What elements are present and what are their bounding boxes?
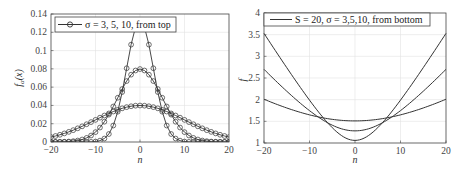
right-ytick-label: 3.5 — [248, 30, 260, 40]
left-ytick-label: 0.08 — [30, 64, 47, 74]
left-xtick-label: −10 — [88, 145, 103, 155]
left-xtick-label: 20 — [224, 145, 234, 155]
left-ytick-label: 0.06 — [30, 82, 47, 92]
right-ytick-label: 1 — [255, 138, 260, 148]
left-ytick-label: 0.1 — [35, 46, 47, 56]
right-ytick-label: 2.5 — [248, 73, 260, 83]
figure: −20−100102000.020.040.060.080.10.120.14 … — [0, 0, 464, 173]
left-xlabel: n — [138, 154, 143, 165]
right-xlabel: n — [353, 154, 358, 165]
left-chart: −20−100102000.020.040.060.080.10.120.14 … — [13, 9, 234, 165]
right-ytick-label: 3 — [255, 51, 260, 61]
right-xtick-label: −10 — [302, 146, 317, 156]
right-ytick-label: 2 — [255, 95, 260, 105]
left-ytick-label: 0.12 — [30, 27, 47, 37]
left-ytick-label: 0.14 — [30, 9, 47, 19]
left-ytick-label: 0 — [42, 137, 47, 147]
right-chart: −20−100102011.522.533.54 S = 20, σ = 3,5… — [237, 8, 451, 165]
left-xtick-label: 10 — [180, 145, 190, 155]
left-ytick-label: 0.04 — [30, 100, 47, 110]
right-ytick-label: 4 — [255, 8, 260, 18]
left-legend-text: σ = 3, 5, 10, from top — [85, 19, 171, 30]
left-legend: σ = 3, 5, 10, from top — [55, 17, 176, 32]
right-legend-text: S = 20, σ = 3,5,10, from bottom — [295, 14, 423, 25]
right-ylabel: f — [237, 77, 248, 81]
right-xtick-label: 20 — [441, 146, 451, 156]
right-xtick-label: 10 — [396, 146, 406, 156]
right-ytick-label: 1.5 — [248, 116, 260, 126]
left-ytick-label: 0.02 — [30, 119, 47, 129]
right-legend: S = 20, σ = 3,5,10, from bottom — [264, 13, 430, 26]
svg-text:fα(x): fα(x) — [13, 69, 26, 87]
left-ylabel: fα(x) — [13, 69, 26, 87]
